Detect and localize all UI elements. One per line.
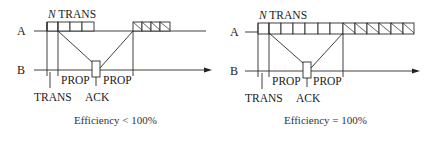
ack-label: ACK — [85, 91, 110, 103]
trans-label: TRANS — [34, 91, 72, 103]
time-arrow-icon — [412, 69, 420, 74]
trans-label: TRANS — [245, 92, 283, 104]
ack-label: ACK — [296, 92, 321, 104]
ack-box — [303, 62, 311, 78]
prop-left-label: PROP — [272, 75, 301, 87]
sent-frames — [47, 22, 94, 31]
window-label: N TRANS — [47, 8, 96, 20]
idle-hatched-frames — [133, 22, 170, 31]
station-b-label: B — [230, 64, 238, 78]
prop-forward-line — [58, 31, 92, 62]
window-label: N TRANS — [258, 9, 307, 21]
efficiency-caption: Efficiency < 100% — [74, 114, 157, 126]
prop-return-line — [100, 31, 133, 68]
continued-hatched-frames — [343, 23, 414, 34]
prop-right-label: PROP — [313, 75, 342, 87]
prop-left-label: PROP — [61, 74, 90, 86]
sent-frames — [258, 23, 343, 34]
sliding-window-diagram: A B N TRANS — [0, 0, 433, 141]
efficiency-caption: Efficiency = 100% — [284, 114, 367, 126]
prop-right-label: PROP — [103, 74, 132, 86]
diagram-efficiency-equal-100: A B N TRANS — [230, 9, 420, 126]
prop-return-line — [311, 33, 343, 68]
time-arrow-icon — [204, 68, 212, 73]
station-a-label: A — [230, 25, 239, 39]
diagram-efficiency-less-than-100: A B N TRANS — [17, 8, 212, 126]
station-a-label: A — [17, 24, 26, 38]
ack-box — [92, 61, 100, 77]
station-b-label: B — [17, 63, 25, 77]
prop-forward-line — [269, 33, 303, 63]
